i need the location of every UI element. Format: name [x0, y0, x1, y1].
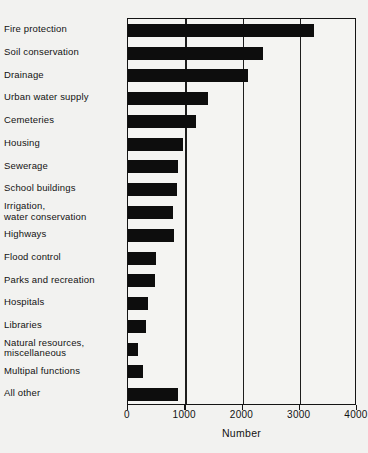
tick-label-1000: 1000: [173, 409, 196, 420]
tick-label-3000: 3000: [287, 409, 310, 420]
bar: [128, 206, 173, 219]
tick-label-2000: 2000: [230, 409, 253, 420]
tick-label-4000: 4000: [344, 409, 367, 420]
category-label: Flood control: [4, 252, 124, 263]
bar: [128, 252, 156, 265]
category-label: Housing: [4, 138, 124, 149]
category-label: All other: [4, 388, 124, 399]
bar: [128, 365, 143, 378]
category-label: Multipal functions: [4, 366, 124, 377]
category-label: Irrigation, water conservation: [4, 201, 124, 222]
bar: [128, 115, 196, 128]
bar: [128, 138, 183, 151]
bar: [128, 92, 208, 105]
bar-chart: Fire protectionSoil conservationDrainage…: [0, 0, 368, 453]
bar: [128, 47, 263, 60]
bars-layer: [128, 19, 355, 404]
bar: [128, 343, 138, 356]
category-label: Natural resources, miscellaneous: [4, 338, 124, 359]
plot-area: [127, 18, 356, 405]
bar: [128, 160, 178, 173]
bar: [128, 320, 146, 333]
bar: [128, 183, 177, 196]
category-label: Soil conservation: [4, 47, 124, 58]
bar: [128, 69, 248, 82]
category-label: Fire protection: [4, 24, 124, 35]
bar: [128, 274, 155, 287]
category-label: Drainage: [4, 70, 124, 81]
category-label-column: Fire protectionSoil conservationDrainage…: [0, 18, 126, 405]
category-label: Cemeteries: [4, 115, 124, 126]
category-label: Libraries: [4, 320, 124, 331]
category-label: Urban water supply: [4, 92, 124, 103]
category-label: School buildings: [4, 183, 124, 194]
bar: [128, 229, 174, 242]
tick-label-0: 0: [124, 409, 130, 420]
category-label: Hospitals: [4, 297, 124, 308]
bar: [128, 297, 148, 310]
bar: [128, 388, 178, 401]
category-label: Highways: [4, 229, 124, 240]
bar: [128, 24, 314, 37]
x-axis-title: Number: [127, 427, 356, 439]
category-label: Parks and recreation: [4, 275, 124, 286]
category-label: Sewerage: [4, 161, 124, 172]
